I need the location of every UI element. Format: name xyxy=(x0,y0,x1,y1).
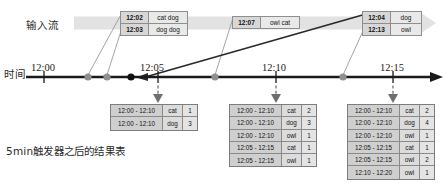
window-cell: 12:05 - 12:15 xyxy=(230,142,282,153)
window-cell: 12:00 - 12:10 xyxy=(230,105,282,116)
event-box-1[interactable]: 12:02 cat dog 12:03 dog dog xyxy=(120,11,188,36)
window-cell: 12:00 - 12:10 xyxy=(111,117,163,129)
window-cell: 12:00 - 12:10 xyxy=(111,105,163,116)
key-cell: owl xyxy=(282,154,302,166)
event-value: dog xyxy=(391,12,421,23)
input-stream-label: 输入流 xyxy=(26,17,59,32)
count-cell: 1 xyxy=(420,142,434,153)
result-table-1215[interactable]: 12:00 - 12:10 cat 2 12:00 - 12:10 dog 4 … xyxy=(347,104,435,180)
window-cell: 12:05 - 12:15 xyxy=(348,142,400,153)
key-cell: owl xyxy=(400,166,420,178)
table-row: 12:10 - 12:20 owl 1 xyxy=(348,166,434,178)
result-table-caption: 5min触发器之后的结果表 xyxy=(6,143,125,158)
event-row: 12:13 owl xyxy=(363,24,421,35)
axis-tick-1205: 12:05 xyxy=(140,62,164,73)
count-cell: 1 xyxy=(183,105,197,116)
event-row: 12:04 dog xyxy=(363,12,421,24)
window-cell: 12:00 - 12:10 xyxy=(348,130,400,141)
table-row: 12:00 - 12:10 dog 3 xyxy=(111,117,197,129)
result-table-1205[interactable]: 12:00 - 12:10 cat 1 12:00 - 12:10 dog 3 xyxy=(110,104,198,131)
event-row: 12:02 cat dog xyxy=(121,12,187,24)
count-cell: 2 xyxy=(420,154,434,165)
event-box-3[interactable]: 12:04 dog 12:13 owl xyxy=(362,11,422,36)
result-table-1210[interactable]: 12:00 - 12:10 cat 2 12:00 - 12:10 dog 3 … xyxy=(229,104,317,167)
key-cell: owl xyxy=(282,130,302,141)
key-cell: dog xyxy=(163,117,183,129)
event-value: dog dog xyxy=(149,24,187,35)
count-cell: 1 xyxy=(420,166,434,178)
key-cell: cat xyxy=(163,105,183,116)
window-cell: 12:10 - 12:20 xyxy=(348,166,400,178)
event-box-2[interactable]: 12:07 owl cat xyxy=(232,16,300,29)
key-cell: dog xyxy=(282,117,302,128)
table-row: 12:00 - 12:10 dog 3 xyxy=(230,117,316,129)
table-row: 12:00 - 12:10 owl 1 xyxy=(348,130,434,142)
window-cell: 12:00 - 12:10 xyxy=(348,105,400,116)
table-row: 12:00 - 12:10 owl 1 xyxy=(230,130,316,142)
table-row: 12:00 - 12:10 cat 2 xyxy=(348,105,434,117)
key-cell: dog xyxy=(400,117,420,128)
count-cell: 3 xyxy=(183,117,197,129)
key-cell: cat xyxy=(282,142,302,153)
event-time: 12:03 xyxy=(121,24,149,35)
window-cell: 12:00 - 12:10 xyxy=(230,117,282,128)
event-row: 12:03 dog dog xyxy=(121,24,187,35)
axis-tick-1210: 12:10 xyxy=(262,62,286,73)
table-row: 12:05 - 12:15 owl 2 xyxy=(348,154,434,166)
table-row: 12:00 - 12:10 cat 1 xyxy=(111,105,197,117)
event-value: owl cat xyxy=(261,17,299,28)
axis-tick-1215: 12:15 xyxy=(380,62,404,73)
event-time: 12:02 xyxy=(121,12,149,23)
count-cell: 1 xyxy=(302,154,316,166)
key-cell: cat xyxy=(282,105,302,116)
window-cell: 12:00 - 12:10 xyxy=(348,117,400,128)
window-cell: 12:00 - 12:10 xyxy=(230,130,282,141)
event-time: 12:13 xyxy=(363,24,391,35)
table-row: 12:05 - 12:15 owl 1 xyxy=(230,154,316,166)
window-cell: 12:05 - 12:15 xyxy=(348,154,400,165)
table-row: 12:05 - 12:15 cat 1 xyxy=(348,142,434,154)
trigger-arrowheads xyxy=(153,94,398,103)
axis-tick-1200: 12:00 xyxy=(31,62,55,73)
table-row: 12:00 - 12:10 dog 4 xyxy=(348,117,434,129)
event-value: owl xyxy=(391,24,421,35)
table-row: 12:05 - 12:15 cat 1 xyxy=(230,142,316,154)
count-cell: 2 xyxy=(420,105,434,116)
time-axis-label: 时间 xyxy=(4,66,26,81)
key-cell: cat xyxy=(400,142,420,153)
count-cell: 4 xyxy=(420,117,434,128)
count-cell: 2 xyxy=(302,105,316,116)
key-cell: cat xyxy=(400,105,420,116)
table-row: 12:00 - 12:10 cat 2 xyxy=(230,105,316,117)
event-time: 12:04 xyxy=(363,12,391,23)
count-cell: 1 xyxy=(420,130,434,141)
count-cell: 1 xyxy=(302,142,316,153)
key-cell: owl xyxy=(400,130,420,141)
event-time: 12:07 xyxy=(233,17,261,28)
event-row: 12:07 owl cat xyxy=(233,17,299,28)
count-cell: 3 xyxy=(302,117,316,128)
event-value: cat dog xyxy=(149,12,187,23)
window-cell: 12:05 - 12:15 xyxy=(230,154,282,166)
count-cell: 1 xyxy=(302,130,316,141)
diagram-canvas: 输入流 时间 5min触发器之后的结果表 12:00 12:05 12:10 1… xyxy=(0,0,447,192)
key-cell: owl xyxy=(400,154,420,165)
